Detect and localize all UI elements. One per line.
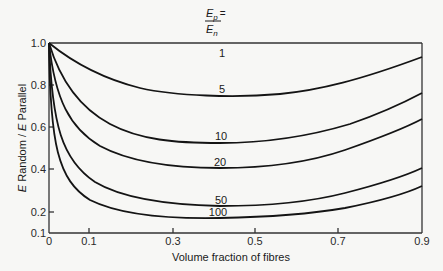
y-axis-label: E Random / E Parallel: [16, 84, 28, 192]
curve-ratio-20: [49, 43, 422, 168]
y-tick-label: 0.8: [31, 79, 46, 91]
svg-text:Ep=: Ep=: [206, 7, 226, 22]
curves: [49, 43, 422, 218]
chart: 1.0 0.8 0.6 0.4 0.2 0.1 0 0.1 0.3 0.5 0.…: [0, 0, 443, 271]
x-tick-label: 0.1: [81, 235, 96, 247]
plot-frame: [49, 43, 422, 233]
y-tick-label: 0.4: [31, 163, 46, 175]
y-tick-label: 1.0: [31, 37, 46, 49]
curve-ratio-100: [49, 43, 422, 218]
curve-ratio-5: [49, 43, 422, 96]
y-tick-label: 0.2: [31, 206, 46, 218]
y-tick-label: 0.6: [31, 121, 46, 133]
x-axis-label: Volume fraction of fibres: [172, 251, 291, 263]
curve-label-1: 1: [219, 47, 225, 59]
svg-text:En: En: [206, 23, 218, 38]
curve-label-10: 10: [215, 130, 227, 142]
curve-ratio-10: [49, 43, 422, 143]
x-tick-label: 0.5: [247, 235, 262, 247]
y-tick-label: 0.1: [31, 227, 46, 239]
curve-label-20: 20: [214, 156, 226, 168]
curve-labels: 1 5 10 20 50 100: [209, 47, 227, 218]
x-tick-label: 0.3: [165, 235, 180, 247]
curve-label-100: 100: [209, 206, 227, 218]
curve-label-5: 5: [219, 83, 225, 95]
x-tick-label: 0: [46, 235, 52, 247]
curve-label-50: 50: [215, 194, 227, 206]
x-tick-label: 0.9: [414, 235, 429, 247]
curve-ratio-50: [49, 43, 422, 206]
x-ticks: 0 0.1 0.3 0.5 0.7 0.9: [46, 228, 430, 247]
x-tick-label: 0.7: [330, 235, 345, 247]
legend-title: Ep= En: [205, 7, 226, 38]
